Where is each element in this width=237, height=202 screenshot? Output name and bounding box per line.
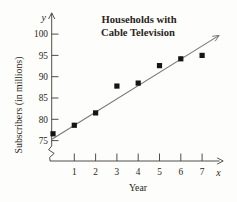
data-points-and-trend-line bbox=[50, 35, 219, 139]
data-point bbox=[136, 80, 141, 85]
y-tick-label: 100 bbox=[34, 29, 48, 39]
x-axis-letter: x bbox=[215, 167, 221, 178]
y-tick-label: 75 bbox=[39, 136, 49, 146]
data-point bbox=[93, 110, 98, 115]
data-point bbox=[178, 56, 183, 61]
x-tick-label: 2 bbox=[93, 167, 98, 177]
x-tick-label: 3 bbox=[115, 167, 120, 177]
data-point bbox=[114, 83, 119, 88]
x-tick-label: 1 bbox=[72, 167, 77, 177]
y-tick-label: 80 bbox=[39, 115, 49, 125]
x-tick-label: 4 bbox=[136, 167, 141, 177]
y-tick-label: 90 bbox=[39, 72, 49, 82]
trend-line bbox=[52, 35, 219, 139]
data-point bbox=[72, 123, 77, 128]
y-tick-label: 95 bbox=[39, 51, 49, 61]
chart-canvas: Households with Cable Television y x Yea… bbox=[0, 0, 237, 202]
data-point bbox=[50, 131, 55, 136]
x-axis-title: Year bbox=[129, 182, 148, 193]
data-point bbox=[157, 63, 162, 68]
x-tick-label: 7 bbox=[200, 167, 205, 177]
data-point bbox=[200, 53, 205, 58]
y-axis-break-squiggle bbox=[49, 146, 55, 161]
x-tick-label: 5 bbox=[157, 167, 162, 177]
chart-title-line2: Cable Television bbox=[101, 27, 175, 38]
chart-title-line1: Households with bbox=[101, 14, 176, 25]
y-tick-label: 85 bbox=[39, 93, 49, 103]
y-axis-letter: y bbox=[41, 12, 47, 23]
x-tick-label: 6 bbox=[178, 167, 183, 177]
cable-tv-scatter-figure: Households with Cable Television y x Yea… bbox=[0, 0, 237, 202]
trend-line-arrow bbox=[212, 35, 219, 41]
y-axis-title: Subscribers (in millions) bbox=[13, 57, 25, 154]
